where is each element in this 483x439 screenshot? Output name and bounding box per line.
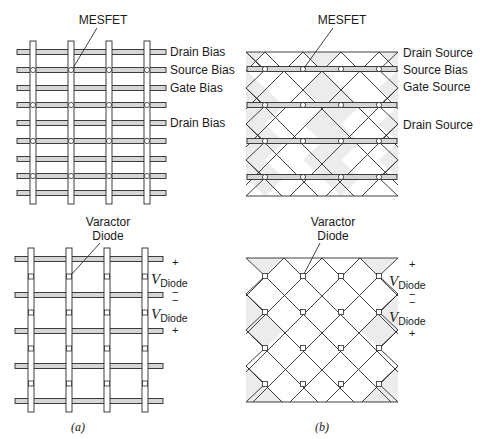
varactor-callout-line2: Diode [92,229,124,243]
mesfet-callout: MESFET [79,13,128,27]
panel-a-varactor-grid [15,243,163,412]
caption-b: (b) [315,420,329,434]
mesfet-leader-line [73,28,97,68]
v-diode-label: VDiode [151,306,188,324]
v-diode-label: VDiode [151,271,188,289]
figure-canvas: MESFET Drain Bias Source Bias Gate Bias … [0,0,483,439]
varactor-callout-b-line2: Diode [317,229,349,243]
plus-sign: + [409,258,415,270]
plus-sign: + [172,324,178,336]
panel-b-varactor-grid [246,243,398,402]
row-label-drain-source-2: Drain Source [403,118,473,132]
horizontal-bias-lines [15,257,163,404]
minus-sign: − [172,294,178,306]
caption-a: (a) [71,420,85,434]
mesfet-callout-b: MESFET [318,13,367,27]
row-label-gate-bias: Gate Bias [170,81,223,95]
row-label-gate-source: Gate Source [403,80,471,94]
v-diode-label: VDiode [389,309,426,327]
v-diode-label: VDiode [389,273,426,291]
panel-a-mesfet-grid [17,28,166,204]
varactor-leader-line [304,243,320,274]
row-label-source-bias-b: Source Bias [403,63,468,77]
row-label-drain-source: Drain Source [403,46,473,60]
row-label-drain-bias: Drain Bias [170,45,225,59]
panel-b-mesfet-grid [246,28,398,196]
minus-sign: − [409,296,415,308]
row-label-drain-bias-2: Drain Bias [170,116,225,130]
row-label-source-bias: Source Bias [170,63,235,77]
varactor-callout-line1: Varactor [86,215,130,229]
plus-sign: + [409,327,415,339]
varactor-callout-b-line1: Varactor [311,215,355,229]
plus-sign: + [172,256,178,268]
